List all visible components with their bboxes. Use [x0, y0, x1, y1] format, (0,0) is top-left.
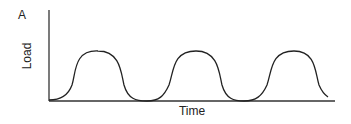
- chart-plot: [0, 0, 351, 124]
- load-curve: [49, 51, 328, 101]
